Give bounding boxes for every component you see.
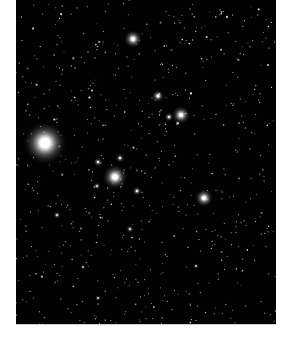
faint-star <box>220 49 222 51</box>
faint-star <box>159 160 160 161</box>
faint-star <box>124 314 125 315</box>
faint-star <box>74 162 75 163</box>
faint-star <box>76 304 77 305</box>
faint-star <box>178 294 179 295</box>
faint-star <box>87 132 88 133</box>
faint-star <box>265 37 266 38</box>
faint-star <box>136 170 138 172</box>
faint-star <box>189 98 190 99</box>
faint-star <box>184 177 185 178</box>
faint-star <box>235 41 236 42</box>
faint-star <box>65 159 66 160</box>
faint-star <box>231 232 232 233</box>
faint-star <box>60 85 61 86</box>
faint-star <box>124 111 126 113</box>
faint-star <box>224 269 225 270</box>
bright-star <box>56 214 58 216</box>
faint-star <box>31 246 32 247</box>
faint-star <box>69 209 70 210</box>
faint-star <box>259 102 260 103</box>
faint-star <box>232 105 233 106</box>
faint-star <box>230 318 231 319</box>
faint-star <box>102 217 103 218</box>
faint-star <box>209 11 210 12</box>
faint-star <box>240 285 241 286</box>
faint-star <box>181 177 182 178</box>
faint-star <box>57 35 58 36</box>
faint-star <box>102 138 103 139</box>
faint-star <box>130 167 131 168</box>
faint-star <box>111 249 112 250</box>
faint-star <box>59 68 60 69</box>
faint-star <box>61 204 62 205</box>
faint-star <box>33 5 34 6</box>
faint-star <box>270 314 271 315</box>
faint-star <box>95 318 96 319</box>
faint-star <box>70 245 71 246</box>
faint-star <box>88 88 90 90</box>
faint-star <box>267 231 268 232</box>
faint-star <box>103 31 104 32</box>
faint-star <box>275 310 276 312</box>
faint-star <box>257 14 259 16</box>
faint-star <box>192 39 193 40</box>
faint-star <box>99 120 100 121</box>
faint-star <box>212 231 213 232</box>
faint-star <box>26 301 27 302</box>
faint-star <box>243 122 244 123</box>
faint-star <box>172 94 173 95</box>
faint-star <box>104 124 106 126</box>
faint-star <box>187 246 189 248</box>
faint-star <box>168 69 169 70</box>
faint-star <box>261 301 262 302</box>
faint-star <box>129 0 130 1</box>
faint-star <box>186 267 187 268</box>
faint-star <box>141 311 142 312</box>
faint-star <box>249 149 250 150</box>
faint-star <box>162 300 163 301</box>
faint-star <box>269 123 270 124</box>
faint-star <box>233 196 234 197</box>
faint-star <box>190 305 191 306</box>
faint-star <box>60 299 61 300</box>
faint-star <box>61 174 63 176</box>
faint-star <box>220 13 222 15</box>
faint-star <box>159 124 160 125</box>
faint-star <box>162 64 163 65</box>
faint-star <box>185 89 186 90</box>
faint-star <box>54 264 55 265</box>
faint-star <box>263 180 265 182</box>
faint-star <box>205 80 206 81</box>
faint-star <box>268 48 269 49</box>
faint-star <box>91 123 92 124</box>
faint-star <box>90 255 91 256</box>
faint-star <box>274 42 275 43</box>
faint-star <box>124 144 125 145</box>
faint-star <box>258 99 259 100</box>
faint-star <box>203 61 204 62</box>
faint-star <box>194 115 195 116</box>
faint-star <box>214 244 215 245</box>
faint-star <box>222 192 223 193</box>
faint-star <box>122 210 123 211</box>
faint-star <box>59 161 60 162</box>
faint-star <box>16 302 17 303</box>
faint-star <box>56 273 58 275</box>
faint-star <box>242 46 243 47</box>
faint-star <box>91 89 93 91</box>
faint-star <box>43 66 44 67</box>
faint-star <box>262 168 263 169</box>
faint-star <box>85 208 86 209</box>
faint-star <box>79 320 80 321</box>
faint-star <box>194 205 195 206</box>
faint-star <box>56 122 57 123</box>
faint-star <box>179 20 180 21</box>
bright-star <box>157 95 160 98</box>
faint-star <box>88 250 89 251</box>
faint-star <box>150 219 151 220</box>
faint-star <box>162 272 163 273</box>
faint-star <box>43 93 44 94</box>
faint-star <box>173 235 175 237</box>
faint-star <box>86 262 87 263</box>
faint-star <box>78 157 79 158</box>
